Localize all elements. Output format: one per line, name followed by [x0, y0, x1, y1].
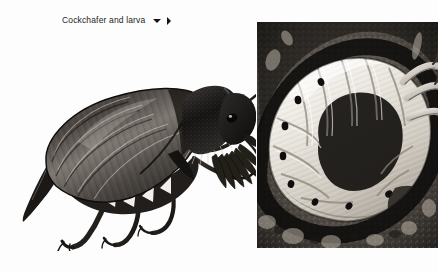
cockchafer-larva-photo — [257, 22, 438, 248]
figure-caption-row: Cockchafer and larva — [62, 15, 171, 26]
triangle-right-icon[interactable] — [167, 17, 171, 25]
figure-caption-label: Cockchafer and larva — [62, 15, 145, 26]
antenna-lamellae — [212, 144, 256, 189]
figure-page: Cockchafer and larva — [0, 0, 438, 271]
triangle-down-icon[interactable] — [153, 19, 161, 23]
cockchafer-beetle-illustration — [18, 46, 256, 251]
